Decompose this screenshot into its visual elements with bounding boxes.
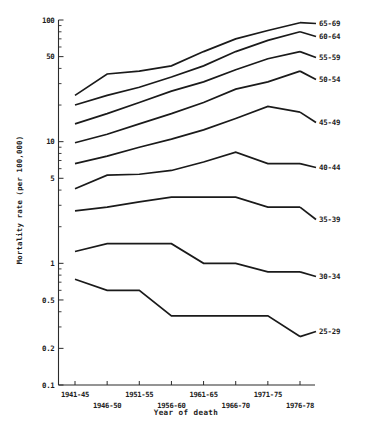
series-label-30-34: 30-34	[319, 272, 341, 281]
series-label-50-54: 50-54	[319, 75, 341, 84]
x-axis-tick-label: 1976-78	[286, 401, 314, 410]
series-leader-60-64	[300, 32, 316, 37]
series-leader-45-49	[300, 112, 316, 122]
series-leader-35-39	[300, 207, 316, 219]
series-leader-55-59	[300, 52, 316, 58]
series-line-30-34	[75, 244, 300, 272]
y-axis-tick-label: 10	[46, 137, 54, 146]
series-line-40-44	[75, 152, 300, 189]
series-line-60-64	[75, 32, 300, 105]
y-axis-tick-label: 0.5	[42, 296, 54, 305]
x-axis-tick-label: 1966-70	[222, 401, 250, 410]
series-label-35-39: 35-39	[319, 215, 340, 224]
series-label-55-59: 55-59	[319, 53, 340, 62]
y-axis-tick-label: 0.2	[42, 344, 54, 353]
series-line-25-29	[75, 279, 300, 336]
y-axis-tick-labels: 1005010510.50.20.1	[42, 16, 55, 390]
series-line-45-49	[75, 106, 300, 163]
figure-container: 1005010510.50.20.1 1941-451946-501951-55…	[0, 0, 366, 447]
series-label-45-49: 45-49	[319, 118, 340, 127]
y-axis-tick-label: 1	[50, 259, 55, 268]
mortality-rate-line-chart: 1005010510.50.20.1 1941-451946-501951-55…	[0, 0, 366, 447]
y-axis-title: Mortality rate (per 100,000)	[15, 136, 24, 265]
series-label-25-29: 25-29	[319, 327, 340, 336]
y-axis-tick-label: 50	[46, 52, 54, 61]
x-axis-ticks	[75, 381, 300, 385]
x-axis-title: Year of death	[154, 408, 219, 417]
series-labels-group: 65-6960-6455-5950-5445-4940-4435-3930-34…	[319, 19, 341, 336]
x-axis-tick-labels: 1941-451946-501951-551956-601961-651966-…	[61, 390, 314, 410]
series-lines-group	[75, 23, 316, 337]
x-axis-tick-label: 1971-75	[254, 390, 282, 399]
x-axis-tick-label: 1961-65	[189, 390, 217, 399]
series-label-40-44: 40-44	[319, 163, 341, 172]
series-line-55-59	[75, 52, 300, 124]
y-axis-ticks	[59, 20, 64, 385]
y-axis-tick-label: 5	[50, 174, 54, 183]
x-axis-tick-label: 1951-55	[125, 390, 153, 399]
x-axis-tick-label: 1946-50	[93, 401, 121, 410]
series-leader-25-29	[300, 332, 316, 337]
series-line-35-39	[75, 197, 300, 211]
y-axis-tick-label: 0.1	[42, 381, 55, 390]
series-leader-40-44	[300, 164, 316, 168]
series-label-65-69: 65-69	[319, 19, 340, 28]
x-axis-tick-label: 1941-45	[61, 390, 89, 399]
series-leader-30-34	[300, 272, 316, 277]
axes-group	[59, 20, 316, 385]
series-label-60-64: 60-64	[319, 32, 341, 41]
y-axis-tick-label: 100	[42, 16, 54, 25]
series-leader-50-54	[300, 71, 316, 79]
series-leader-65-69	[300, 23, 316, 24]
